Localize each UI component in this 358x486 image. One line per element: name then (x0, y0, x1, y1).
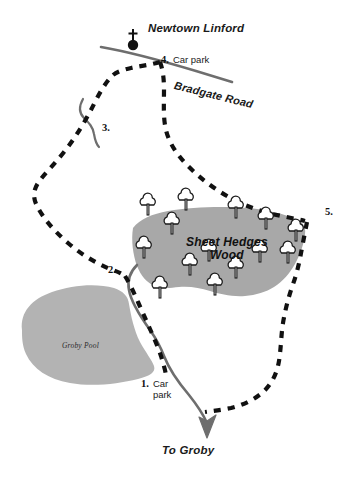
map-canvas: Newtown Linford Bradgate Road Sheet Hedg… (0, 0, 358, 486)
label-wood-line-1: Sheet Hedges (186, 236, 268, 249)
tree-icon (140, 193, 155, 215)
church-icon (128, 29, 138, 50)
marker-2-number: 2. (108, 264, 116, 275)
marker-1-label-line-1: Car (153, 378, 168, 389)
marker-1-number: 1. (141, 378, 149, 389)
label-to-groby: To Groby (162, 444, 214, 457)
marker-4-label: Car park (173, 54, 209, 65)
marker-3[interactable]: 3. (102, 122, 110, 133)
tree-icon (178, 188, 193, 210)
label-wood-line-2: Wood (186, 249, 268, 262)
marker-3-number: 3. (102, 122, 110, 133)
marker-2[interactable]: 2. (108, 264, 116, 275)
marker-1-label: Car park (153, 378, 171, 400)
marker-1[interactable]: 1. Car park (141, 378, 171, 400)
marker-4[interactable]: 4. Car park (161, 54, 209, 65)
marker-4-number: 4. (161, 54, 169, 65)
label-sheet-hedges-wood: Sheet Hedges Wood (186, 236, 268, 263)
direction-arrow-icon (199, 415, 216, 438)
marker-1-label-line-2: park (153, 389, 171, 400)
groby-pool-water-polygon (22, 285, 155, 385)
minor-lane-line (80, 99, 99, 147)
map-vector-layer (0, 0, 358, 486)
marker-5-number: 5. (325, 206, 333, 217)
marker-5[interactable]: 5. (325, 206, 333, 217)
label-groby-pool: Groby Pool (62, 342, 99, 350)
label-newtown-linford: Newtown Linford (148, 22, 244, 35)
